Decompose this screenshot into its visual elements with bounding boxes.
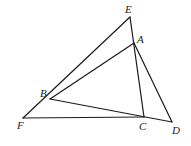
point-label-a: A bbox=[136, 33, 144, 45]
point-label-c: C bbox=[139, 120, 147, 132]
point-labels: EABFCD bbox=[16, 3, 180, 136]
point-label-b: B bbox=[40, 87, 47, 99]
geometry-figure: EABFCD bbox=[0, 0, 191, 146]
segment-fc bbox=[23, 117, 144, 118]
segments bbox=[23, 17, 172, 122]
segment-bd bbox=[50, 99, 172, 122]
segment-fe bbox=[23, 17, 130, 118]
segment-ec bbox=[130, 17, 144, 117]
point-label-e: E bbox=[124, 3, 132, 15]
point-label-d: D bbox=[171, 124, 180, 136]
segment-ba bbox=[50, 43, 134, 99]
point-label-f: F bbox=[16, 119, 24, 131]
